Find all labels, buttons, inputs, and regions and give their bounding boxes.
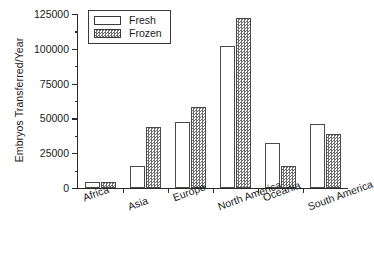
y-tick-minor [75,101,79,102]
legend-label-fresh: Fresh [129,15,156,26]
white-square-icon [94,16,121,25]
legend-label-frozen: Frozen [129,28,162,39]
y-tick-major [72,153,78,154]
x-tick [303,188,304,193]
y-tick-minor [75,66,79,67]
x-tick [168,188,169,193]
chart-legend: Fresh Frozen [88,10,171,44]
bar-fresh-europe [175,122,190,188]
y-tick-major [72,49,78,50]
y-tick-label: 125000 [34,8,69,20]
y-tick-label: 100000 [34,43,69,55]
y-tick-label: 0 [63,182,69,194]
bar-frozen-asia [146,127,161,188]
bar-frozen-europe [191,107,206,188]
y-tick-major [72,14,78,15]
y-tick-minor [75,136,79,137]
x-category-label: Asia [126,194,149,212]
x-tick [123,188,124,193]
x-tick [213,188,214,193]
y-tick-label: 75000 [40,78,69,90]
y-tick-minor [75,171,79,172]
y-axis-title: Embryos Transferred/Year [13,7,25,193]
bar-frozen-north-america [236,18,251,188]
bar-frozen-south-america [326,134,341,188]
hatched-square-icon [94,29,121,38]
legend-item-fresh: Fresh [94,14,162,27]
bar-fresh-asia [130,166,145,188]
y-tick-major [72,118,78,119]
y-tick-label: 50000 [40,112,69,124]
legend-item-frozen: Frozen [94,27,162,40]
y-tick-minor [75,31,79,32]
bar-fresh-south-america [310,124,325,188]
y-tick-major [72,188,78,189]
bar-fresh-north-america [220,46,235,188]
y-tick-major [72,84,78,85]
y-tick-label: 25000 [40,147,69,159]
